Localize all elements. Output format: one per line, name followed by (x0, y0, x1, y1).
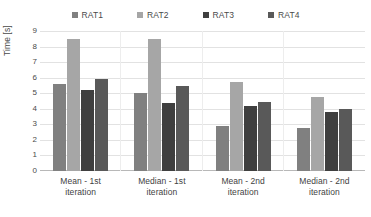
bar-rat2[interactable] (67, 39, 80, 171)
x-axis-category-label: Mean - 1stiteration (40, 176, 121, 198)
bar-rat3[interactable] (244, 106, 257, 171)
x-axis-category-label-line: Median - 1st (121, 176, 202, 187)
y-axis-tick-label: 7 (27, 58, 37, 66)
y-axis-tick-label: 9 (27, 27, 37, 35)
y-axis-tick-label: 3 (27, 120, 37, 128)
bar-rat4[interactable] (339, 109, 352, 171)
legend-item-rat2[interactable]: RAT2 (137, 11, 169, 20)
bar-group (40, 31, 121, 171)
bar-rat2[interactable] (148, 39, 161, 171)
bar-rat3[interactable] (81, 90, 94, 171)
y-axis-tick-label: 2 (27, 136, 37, 144)
y-axis-tick-label: 5 (27, 89, 37, 97)
y-axis-tick-label: 8 (27, 43, 37, 51)
y-axis-tick-label: 0 (27, 167, 37, 175)
bar-groups (40, 31, 365, 171)
x-axis-category-label: Median - 2nditeration (284, 176, 365, 198)
bar-rat3[interactable] (325, 112, 338, 171)
legend-item-label: RAT4 (278, 11, 300, 20)
bar-rat4[interactable] (95, 79, 108, 171)
bar-group (203, 31, 284, 171)
x-axis-category-labels: Mean - 1stiterationMedian - 1stiteration… (40, 176, 365, 198)
bar-group (121, 31, 202, 171)
x-axis-category-label: Mean - 2nditeration (203, 176, 284, 198)
x-axis-category-label-line: iteration (284, 187, 365, 198)
bar-rat1[interactable] (216, 126, 229, 171)
legend-item-label: RAT1 (82, 11, 104, 20)
bar-rat2[interactable] (230, 82, 243, 171)
bar-rat1[interactable] (53, 84, 66, 171)
legend-item-label: RAT3 (213, 11, 235, 20)
legend-swatch-icon (72, 12, 78, 18)
x-axis-category-label-line: iteration (40, 187, 121, 198)
bar-rat4[interactable] (176, 86, 189, 171)
chart-screenshot: RAT1RAT2RAT3RAT4 Time [s] 9876543210 Mea… (0, 0, 371, 217)
legend-item-label: RAT2 (147, 11, 169, 20)
bar-rat2[interactable] (311, 97, 324, 171)
x-axis-category-label: Median - 1stiteration (121, 176, 202, 198)
bar-rat1[interactable] (134, 93, 147, 171)
legend-swatch-icon (203, 12, 209, 18)
chart-legend: RAT1RAT2RAT3RAT4 (0, 7, 371, 23)
y-axis-title: Time [s] (2, 25, 12, 56)
y-axis-tick-label: 4 (27, 105, 37, 113)
legend-swatch-icon (268, 12, 274, 18)
legend-swatch-icon (137, 12, 143, 18)
bar-rat4[interactable] (258, 102, 271, 171)
legend-item-rat1[interactable]: RAT1 (72, 11, 104, 20)
x-axis-category-label-line: Median - 2nd (284, 176, 365, 187)
x-axis-category-label-line: iteration (203, 187, 284, 198)
legend-item-rat3[interactable]: RAT3 (203, 11, 235, 20)
x-axis-category-label-line: iteration (121, 187, 202, 198)
x-axis-category-label-line: Mean - 2nd (203, 176, 284, 187)
x-axis-category-label-line: Mean - 1st (40, 176, 121, 187)
legend-item-rat4[interactable]: RAT4 (268, 11, 300, 20)
y-axis-tick-label: 1 (27, 151, 37, 159)
bar-rat3[interactable] (162, 103, 175, 171)
bar-rat1[interactable] (297, 128, 310, 171)
y-axis-tick-labels: 9876543210 (24, 31, 37, 171)
y-axis-tick-label: 6 (27, 74, 37, 82)
bar-group (284, 31, 365, 171)
